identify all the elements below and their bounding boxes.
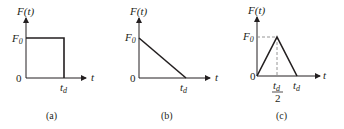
origin-label: 0 <box>16 72 22 84</box>
caption-c: (c) <box>276 110 287 122</box>
force-pulse-diagrams: F(t) t 0 F0 td (a) F(t) t 0 F0 td (b) F(… <box>0 0 344 129</box>
origin-label: 0 <box>130 72 136 84</box>
x-axis-label: t <box>323 69 327 81</box>
ramp-curve <box>139 38 186 78</box>
amplitude-label: F0 <box>242 30 254 44</box>
x-axis-label: t <box>215 71 219 83</box>
panel-a-rectangular-pulse: F(t) t 0 F0 td (a) <box>11 5 95 122</box>
pulse-curve <box>26 38 64 78</box>
panel-c-triangular-pulse: F(t) t 0 F0 td 2 td (c) <box>242 4 327 122</box>
caption-b: (b) <box>161 110 173 122</box>
duration-label: td <box>180 81 188 95</box>
x-axis-label: t <box>91 71 95 83</box>
panel-b-decaying-ramp: F(t) t 0 F0 td (b) <box>124 5 219 122</box>
caption-a: (a) <box>46 110 57 122</box>
y-axis-label: F(t) <box>16 5 34 18</box>
fraction-denominator: 2 <box>275 92 281 104</box>
y-axis-label: F(t) <box>129 5 147 18</box>
y-axis-label: F(t) <box>247 4 265 17</box>
duration-label: td <box>60 81 68 95</box>
mid-time-fraction-label: td 2 <box>272 79 283 104</box>
duration-label: td <box>293 79 301 93</box>
origin-label: 0 <box>250 70 256 82</box>
amplitude-label: F0 <box>124 31 136 45</box>
fraction-numerator: td <box>273 79 281 93</box>
amplitude-label: F0 <box>11 32 23 46</box>
